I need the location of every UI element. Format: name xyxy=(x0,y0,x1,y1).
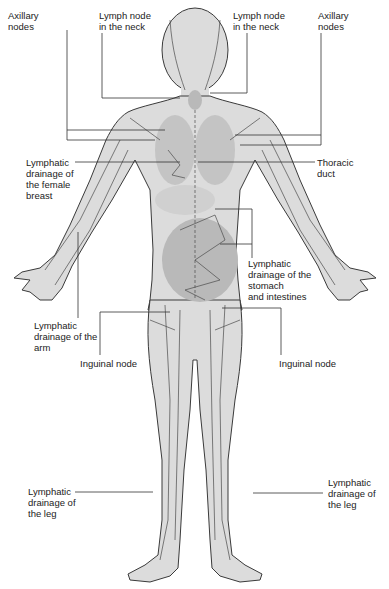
liver xyxy=(155,185,215,215)
thyroid xyxy=(188,90,202,110)
label-axillary-nodes-left: Axillary nodes xyxy=(8,10,39,32)
legs xyxy=(128,300,262,582)
label-axillary-nodes-right: Axillary nodes xyxy=(318,10,349,32)
label-leg-drainage-right: Lymphatic drainage of the leg xyxy=(328,477,376,510)
right-lung xyxy=(195,115,235,185)
label-lymph-node-neck-left: Lymph node in the neck xyxy=(99,10,151,32)
label-inguinal-node-left: Inguinal node xyxy=(80,358,137,369)
label-arm-drainage: Lymphatic drainage of the arm xyxy=(34,320,97,353)
label-inguinal-node-right: Inguinal node xyxy=(279,358,336,369)
label-breast-drainage: Lymphatic drainage of the female breast xyxy=(26,157,76,201)
label-lymph-node-neck-right: Lymph node in the neck xyxy=(233,10,285,32)
intestines xyxy=(162,218,238,302)
label-stomach-intestines-drainage: Lymphatic drainage of the stomach and in… xyxy=(248,258,311,302)
left-lung xyxy=(155,115,195,185)
head xyxy=(162,8,228,92)
label-leg-drainage-left: Lymphatic drainage of the leg xyxy=(28,486,76,519)
label-thoracic-duct: Thoracic duct xyxy=(317,157,353,179)
